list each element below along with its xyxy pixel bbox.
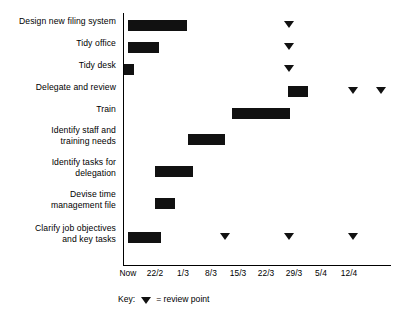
review-point-marker <box>284 21 294 28</box>
key-label: Key: <box>118 294 135 305</box>
review-point-icon <box>141 297 151 304</box>
x-tick-label: 1/3 <box>177 268 189 279</box>
y-axis-line <box>123 13 124 266</box>
gantt-bar <box>188 134 225 145</box>
review-point-marker <box>284 65 294 72</box>
chart-key: Key: = review point <box>118 294 209 305</box>
key-entry-text: = review point <box>156 294 209 305</box>
x-tick-label: 29/3 <box>286 268 303 279</box>
gantt-bar <box>124 64 134 75</box>
x-tick-label: Now <box>119 268 136 279</box>
x-tick-label: 22/2 <box>147 268 164 279</box>
x-axis-line <box>123 265 391 266</box>
review-point-marker <box>284 43 294 50</box>
gantt-bar <box>288 86 308 97</box>
plot-area: Now22/21/38/315/322/329/35/412/4 <box>0 0 419 322</box>
gantt-bar <box>232 108 290 119</box>
gantt-bar <box>155 166 193 177</box>
gantt-bar <box>128 42 159 53</box>
gantt-bar <box>128 232 161 243</box>
review-point-marker <box>284 233 294 240</box>
gantt-chart: Design new filing systemTidy officeTidy … <box>0 0 419 322</box>
x-tick-label: 5/4 <box>315 268 327 279</box>
x-tick-label: 12/4 <box>341 268 358 279</box>
x-tick-label: 22/3 <box>258 268 275 279</box>
gantt-bar <box>155 198 175 209</box>
x-tick-label: 8/3 <box>205 268 217 279</box>
review-point-marker <box>348 87 358 94</box>
gantt-bar <box>128 20 187 31</box>
review-point-marker <box>376 87 386 94</box>
review-point-marker <box>220 233 230 240</box>
x-tick-label: 15/3 <box>230 268 247 279</box>
review-point-marker <box>348 233 358 240</box>
